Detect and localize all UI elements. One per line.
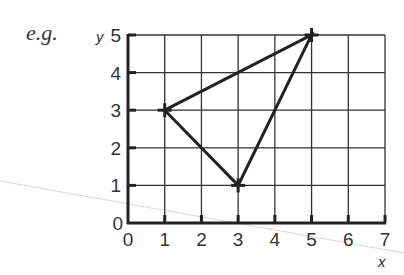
y-tick-label: 4 [110,63,121,84]
y-tick-label: 0 [112,213,123,234]
y-tick-label: 1 [110,175,121,196]
x-tick-label: 6 [343,229,354,250]
x-tick-label: 2 [196,229,207,250]
x-tick-label: 5 [306,229,317,250]
x-axis-label: x [377,253,386,270]
x-tick-label: 1 [159,229,170,250]
y-tick-label: 3 [110,100,121,121]
x-tick-label: 4 [270,229,281,250]
y-tick-label: 2 [110,138,121,159]
x-tick-label: 0 [123,229,134,250]
y-axis-label: y [95,28,105,45]
y-tick-label: 5 [110,25,121,46]
x-tick-label: 7 [380,229,391,250]
coordinate-grid-chart: 01234567012345yx [0,0,404,275]
x-tick-label: 3 [233,229,244,250]
